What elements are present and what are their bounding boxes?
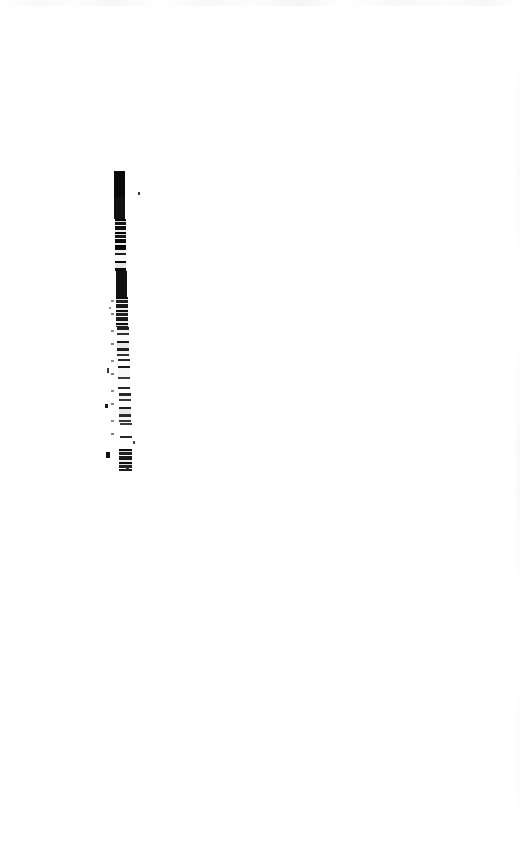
streak-segment-fade-2: [117, 327, 129, 359]
fleck-right-upper: [138, 192, 140, 195]
blank-bottom-region: [0, 471, 520, 862]
fleck-below-tail: [126, 467, 129, 470]
streak-segment-speckle-1: [118, 359, 130, 393]
fleck-left-tail: [105, 404, 108, 408]
scanned-page: [0, 0, 520, 862]
fleck-left-lower: [107, 368, 109, 373]
streak-segment-fade-1: [116, 297, 128, 327]
streak-segment-speckle-3: [120, 423, 132, 449]
fleck-right-tail: [133, 441, 135, 444]
fleck-left-mid: [109, 307, 111, 309]
fleck-left-end: [106, 452, 110, 458]
streak-segment-speckle-2: [119, 393, 131, 423]
streak-segment-dense-mid: [115, 219, 126, 247]
streak-left-ghost: [111, 300, 114, 450]
streak-segment-solid-head: [114, 171, 125, 197]
streak-segment-dense-upper: [114, 197, 125, 219]
streak-segment-dense-lower: [116, 271, 127, 297]
streak-segment-break-1: [115, 247, 126, 271]
